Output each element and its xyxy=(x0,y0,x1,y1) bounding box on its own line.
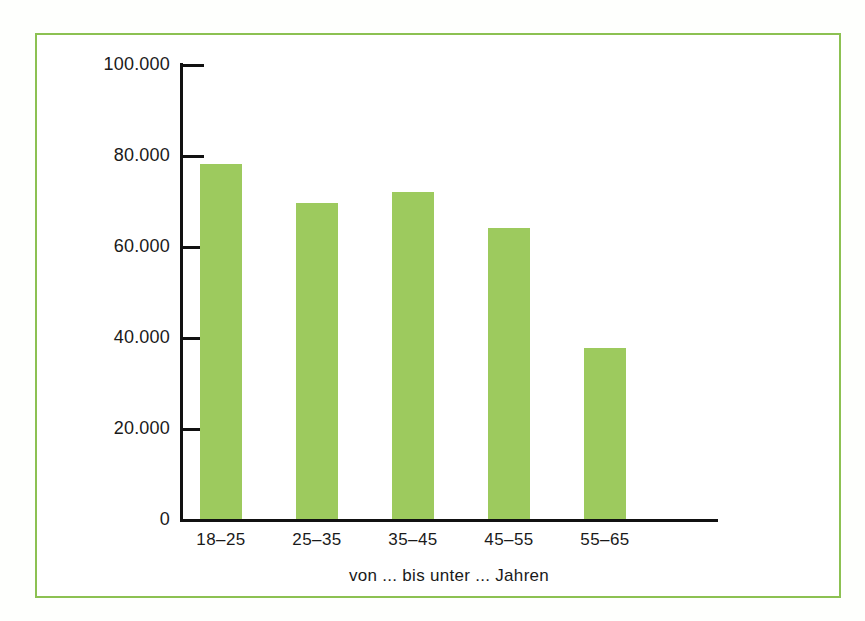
bar-35-45[interactable] xyxy=(392,192,434,519)
plot-area: 100.000 80.000 60.000 40.000 20.000 0 18… xyxy=(0,0,865,621)
x-tick-label-25-35: 25–35 xyxy=(269,530,365,550)
y-tick-label-20000: 20.000 xyxy=(58,418,170,439)
chart-figure: 100.000 80.000 60.000 40.000 20.000 0 18… xyxy=(0,0,865,621)
bar-25-35[interactable] xyxy=(296,203,338,519)
bar-18-25[interactable] xyxy=(200,164,242,519)
y-tick-80000 xyxy=(183,155,204,158)
x-axis-line xyxy=(180,519,718,522)
x-tick-label-35-45: 35–45 xyxy=(365,530,461,550)
y-tick-label-60000: 60.000 xyxy=(58,236,170,257)
x-axis-title: von ... bis unter ... Jahren xyxy=(180,566,718,586)
y-tick-label-80000: 80.000 xyxy=(58,145,170,166)
y-tick-label-40000: 40.000 xyxy=(58,327,170,348)
x-tick-label-55-65: 55–65 xyxy=(557,530,653,550)
bar-55-65[interactable] xyxy=(584,348,626,519)
bar-45-55[interactable] xyxy=(488,228,530,519)
x-tick-label-45-55: 45–55 xyxy=(461,530,557,550)
y-tick-label-100000: 100.000 xyxy=(58,54,170,75)
x-tick-label-18-25: 18–25 xyxy=(173,530,269,550)
y-axis-line xyxy=(180,63,183,522)
y-tick-100000 xyxy=(183,64,204,67)
y-tick-label-0: 0 xyxy=(58,509,170,530)
